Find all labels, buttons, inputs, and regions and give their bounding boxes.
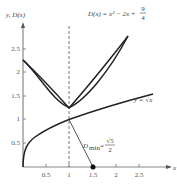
dmin-eq: = bbox=[100, 142, 104, 150]
distance-curve bbox=[23, 36, 128, 108]
dmin-den: 2 bbox=[108, 146, 112, 154]
y-tick-label: 1.5 bbox=[11, 92, 20, 100]
frac-num: 9 bbox=[141, 5, 145, 13]
x-tick-label: 2.5 bbox=[135, 171, 144, 179]
chart: 0.5 1 1.5 2 2.5 x 0.5 1 1.5 2 2.5 y, D(x… bbox=[0, 0, 177, 186]
distance-curve bbox=[23, 36, 128, 108]
x-axis-label: x bbox=[172, 164, 177, 172]
sqrt-curve-label: y = √x bbox=[133, 96, 153, 104]
x-tick-label: 1.5 bbox=[89, 171, 98, 179]
x-tick-label: 1 bbox=[67, 171, 71, 179]
x-tick-label: 0.5 bbox=[42, 171, 51, 179]
dmin-sub: min bbox=[89, 144, 100, 152]
y-tick-label: 0.5 bbox=[11, 139, 20, 147]
dmin-label: D bbox=[82, 142, 88, 150]
y-tick-label: 1 bbox=[17, 115, 21, 123]
y-tick-label: 2 bbox=[17, 68, 21, 76]
y-tick-label: 2.5 bbox=[11, 45, 20, 53]
point-1-5 bbox=[91, 165, 96, 170]
x-tick-label: 2 bbox=[114, 171, 118, 179]
x-axis-arrow-icon bbox=[166, 165, 172, 169]
dmin-num: √5 bbox=[106, 137, 114, 145]
distance-curve-label: D(x) = x² − 2x + bbox=[87, 10, 136, 18]
frac-den: 4 bbox=[141, 14, 145, 22]
y-axis-label: y, D(x) bbox=[5, 11, 26, 19]
y-axis-arrow-icon bbox=[21, 22, 25, 28]
